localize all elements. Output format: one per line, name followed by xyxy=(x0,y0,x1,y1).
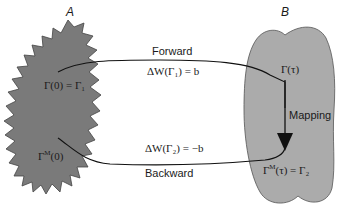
region-a-label: A xyxy=(66,6,74,18)
state-gamma-0: Γ(0) = Γ₁ xyxy=(44,80,85,91)
state-gamma-m-0: ΓM(0) xyxy=(38,150,63,162)
forward-label: Forward xyxy=(152,46,192,57)
mapping-label: Mapping xyxy=(289,110,331,121)
backward-label: Backward xyxy=(145,168,193,179)
region-b-label: B xyxy=(281,6,289,18)
region-a-shape xyxy=(4,20,101,194)
forward-equation: ΔW(Γ₁) = b xyxy=(147,66,199,77)
state-gamma-tau: Γ(τ) xyxy=(281,64,299,75)
state-gamma-m-tau: ΓM(τ) = Γ₂ xyxy=(263,164,309,176)
backward-equation: ΔW(Γ₂) = −b xyxy=(145,143,203,154)
